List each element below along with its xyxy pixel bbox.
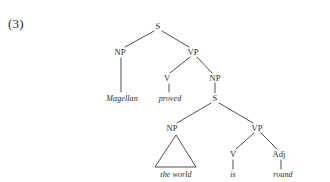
node-label-s1: S <box>156 21 161 31</box>
node-label-adj1: Adj <box>272 149 285 159</box>
branch-VP2-Adj1 <box>261 133 277 149</box>
np-triangle <box>155 135 196 167</box>
branch-S2-VP2 <box>219 103 253 123</box>
branch-lines <box>121 31 281 169</box>
node-label-s2: S <box>213 93 218 103</box>
syntax-tree-figure: (3) SNPVPVNPSNPVPVAdj Magellanprovedthe … <box>0 0 330 182</box>
node-label-np3: NP <box>166 123 177 133</box>
node-label-v1: V <box>164 73 170 83</box>
branch-VP1-NP2 <box>197 57 212 73</box>
node-label-np1: NP <box>114 47 125 57</box>
branch-VP1-V1 <box>170 57 190 73</box>
leaf-word-magellan: Magellan <box>106 94 137 103</box>
node-label-np2: NP <box>209 73 220 83</box>
leaf-word-round: round <box>273 170 292 179</box>
node-label-v2: V <box>230 149 236 159</box>
branch-S2-NP3 <box>177 103 211 123</box>
branch-S1-NP1 <box>125 31 154 47</box>
triangle-np-the-world <box>155 135 196 167</box>
leaf-word-is: is <box>230 170 236 179</box>
node-label-vp2: VP <box>251 123 262 133</box>
node-label-vp1: VP <box>187 47 198 57</box>
branch-S1-VP1 <box>162 31 189 47</box>
leaf-word-the-world: the world <box>160 170 191 179</box>
branch-VP2-V2 <box>236 133 254 149</box>
leaf-word-proved: proved <box>159 94 182 103</box>
